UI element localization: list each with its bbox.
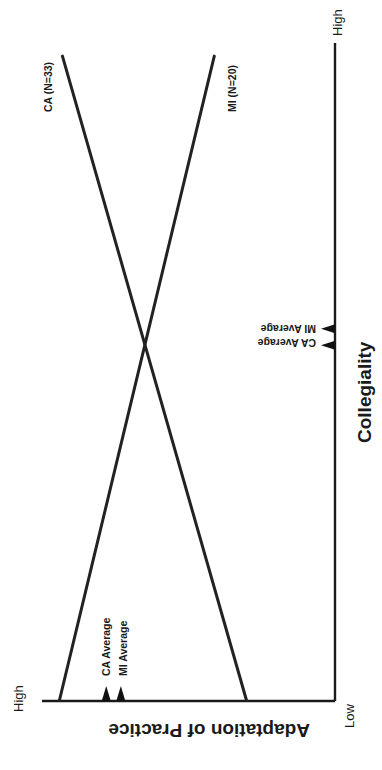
adaptation-axis-title: Adaptation of Practice <box>108 720 310 741</box>
adaptation-high-label: High <box>11 685 26 712</box>
collegiality-axis-title: Collegiality <box>354 341 375 443</box>
adaptation-low-label: Low <box>342 704 357 728</box>
ca-series-line <box>62 56 246 700</box>
collegiality-high-label: High <box>330 9 345 36</box>
mi-average-collegiality-marker-icon <box>321 324 335 333</box>
mi-series-label: MI (N=20) <box>226 65 238 112</box>
ca-average-adaptation-marker-icon <box>102 686 111 701</box>
mi-series-line <box>60 56 215 700</box>
mi-average-adaptation-marker-icon <box>116 686 125 701</box>
ca-average-adaptation-label: CA Average <box>100 617 112 676</box>
ca-series-label: CA (N=33) <box>42 62 54 112</box>
ca-average-collegiality-label: CA Average <box>257 337 316 349</box>
mi-average-adaptation-label: MI Average <box>117 621 129 676</box>
rotated-line-chart: CA (N=33) MI (N=20) CA Average MI Averag… <box>0 0 382 770</box>
ca-average-collegiality-marker-icon <box>321 341 335 350</box>
mi-average-collegiality-label: MI Average <box>261 323 316 335</box>
